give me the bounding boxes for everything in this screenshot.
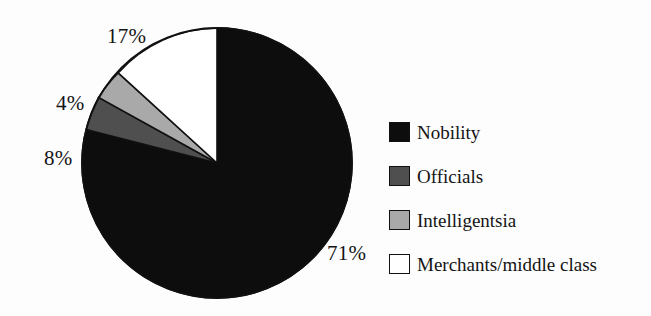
legend-swatch-officials [389,166,410,186]
pie-label-officials-pct: 8% [44,148,72,169]
legend-label-nobility: Nobility [417,123,480,142]
legend-label-intelligentsia: Intelligentsia [417,211,516,230]
legend-swatch-nobility [389,122,410,142]
legend-item-officials[interactable]: Officials [389,154,647,198]
legend-item-nobility[interactable]: Nobility [389,110,647,154]
pie-label-merchants-pct: 17% [107,26,146,47]
legend-label-merchants: Merchants/middle class [417,255,597,274]
pie-chart-graphic: 17% 4% 8% 71% [0,0,400,316]
legend: Nobility Officials Intelligentsia Mercha… [389,110,647,286]
legend-swatch-intelligentsia [389,210,410,230]
legend-label-officials: Officials [417,167,483,186]
legend-swatch-merchants [389,254,410,274]
pie-label-nobility-pct: 71% [327,243,366,264]
legend-item-merchants[interactable]: Merchants/middle class [389,242,647,286]
pie-label-intelligentsia-pct: 4% [56,93,84,114]
pie-chart-figure: 17% 4% 8% 71% Nobility Officials Intelli… [0,0,651,316]
legend-item-intelligentsia[interactable]: Intelligentsia [389,198,647,242]
